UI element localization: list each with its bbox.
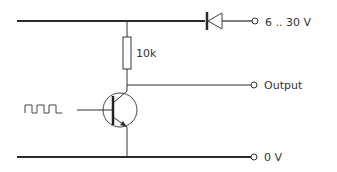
npn-transistor-symbol xyxy=(77,91,137,157)
supply-terminal xyxy=(252,18,258,24)
supply-label: 6 .. 30 V xyxy=(265,16,311,29)
output-label: Output xyxy=(264,79,303,92)
output-terminal xyxy=(251,82,257,88)
ground-label: 0 V xyxy=(264,151,282,164)
resistor-symbol xyxy=(123,37,131,69)
resistor-label: 10k xyxy=(136,47,157,60)
ground-terminal xyxy=(251,154,257,160)
circuit-diagram: 6 .. 30 V 10k Output 0 V xyxy=(0,0,337,172)
square-wave-icon xyxy=(25,105,62,113)
diode-symbol xyxy=(207,12,252,30)
